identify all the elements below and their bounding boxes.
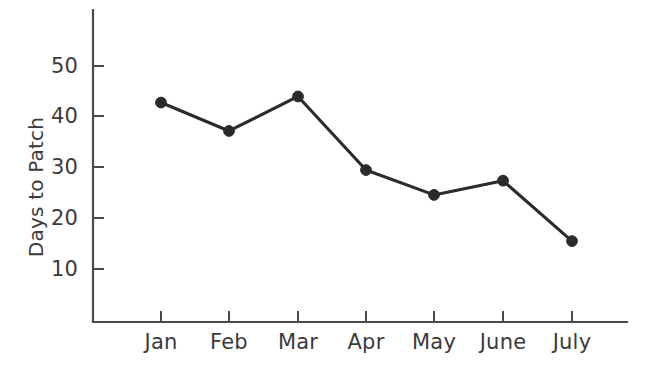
series-markers [156,91,578,246]
data-point-june [498,175,509,186]
y-axis-label: Days to Patch [24,97,48,277]
x-tick-label-jan: Jan [145,330,178,354]
data-point-feb [224,126,235,137]
data-point-mar [293,91,304,102]
x-tick-label-may: May [412,330,456,354]
x-tick-label-feb: Feb [210,330,248,354]
data-point-may [429,190,440,201]
x-tick-label-june: June [480,330,527,354]
x-tick-label-july: July [553,330,592,354]
y-axis-label-wrapper: Days to Patch [0,0,58,365]
x-tick-label-mar: Mar [278,330,318,354]
x-tick-label-apr: Apr [348,330,385,354]
y-axis-ticks [93,66,104,269]
data-point-apr [361,165,372,176]
x-axis-ticks [161,311,572,322]
chart-container: 50 40 30 20 10 Jan Feb Mar Apr May June … [0,0,645,365]
data-point-jan [156,97,167,108]
data-point-july [567,236,578,247]
line-chart-plot [0,0,645,365]
